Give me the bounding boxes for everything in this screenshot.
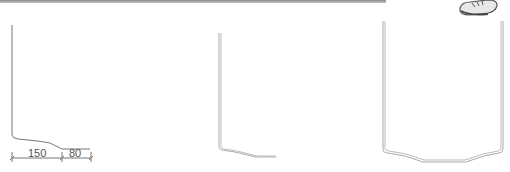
shoe-sketch-icon	[460, 0, 497, 15]
profile-single-wall	[12, 25, 90, 149]
profile-full-vessel	[383, 21, 503, 162]
profile-double-line	[219, 33, 276, 157]
dimension-label-150: 150	[28, 147, 46, 159]
diagram-canvas: 150 80	[0, 0, 510, 172]
dimension-label-80: 80	[69, 147, 81, 159]
